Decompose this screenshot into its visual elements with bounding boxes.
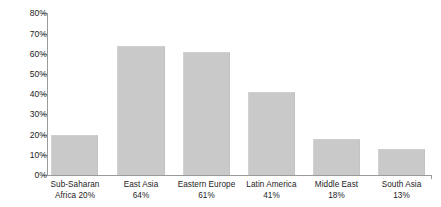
bar-middle-east[interactable] — [313, 139, 360, 175]
x-label-sub-saharan-africa: Sub-Saharan Africa 20% — [41, 180, 109, 201]
bar-sub-saharan-africa[interactable] — [51, 135, 98, 175]
x-label-name-line2: Africa — [55, 191, 76, 200]
x-label-middle-east: Middle East 18% — [302, 180, 371, 201]
x-label-latin-america: Latin America 41% — [236, 180, 307, 201]
x-label-pct: 61% — [170, 191, 243, 202]
x-label-pct: 41% — [236, 191, 307, 202]
x-label-east-asia: East Asia 64% — [107, 180, 175, 201]
x-label-pct: 20% — [79, 191, 96, 200]
bars-layer — [0, 0, 441, 207]
x-label-name: South Asia — [367, 180, 436, 191]
x-label-name: East Asia — [107, 180, 175, 191]
bar-latin-america[interactable] — [248, 92, 295, 175]
x-label-pct: 18% — [302, 191, 371, 202]
bar-chart: 0% 10% 20% 30% 40% 50% 60% 70% — [0, 0, 441, 207]
x-label-name: Sub-Saharan — [41, 180, 109, 191]
bar-south-asia[interactable] — [378, 149, 425, 175]
x-label-name: Middle East — [302, 180, 371, 191]
bar-east-asia[interactable] — [117, 46, 165, 175]
x-label-south-asia: South Asia 13% — [367, 180, 436, 201]
x-label-pct: 13% — [367, 191, 436, 202]
x-label-pct: 64% — [107, 191, 175, 202]
x-label-name: Eastern Europe — [170, 180, 243, 191]
bar-eastern-europe[interactable] — [183, 52, 230, 175]
x-label-value: Africa 20% — [41, 191, 109, 202]
x-label-eastern-europe: Eastern Europe 61% — [170, 180, 243, 201]
x-label-name: Latin America — [236, 180, 307, 191]
